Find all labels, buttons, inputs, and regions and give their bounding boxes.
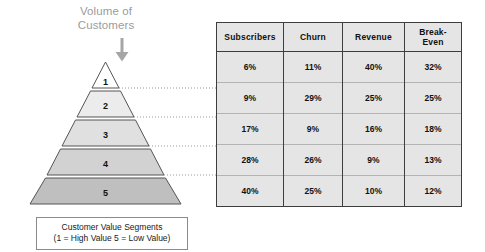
table-header-row: Subscribers Churn Revenue Break- Even [217, 23, 462, 52]
table-row: 9% 29% 25% 25% [217, 83, 462, 114]
pyramid-level-1[interactable]: 1 [92, 62, 119, 88]
pyramid-level-5[interactable]: 5 [30, 178, 181, 204]
cell-break-even: 12% [405, 176, 462, 207]
legend-caption-line-1: Customer Value Segments [39, 222, 185, 233]
column-header-break-even: Break- Even [405, 23, 462, 52]
cell-revenue: 25% [343, 83, 405, 114]
cell-break-even: 25% [405, 83, 462, 114]
cell-subscribers: 17% [217, 114, 284, 145]
column-header-churn: Churn [284, 23, 343, 52]
cell-break-even: 13% [405, 145, 462, 176]
cell-revenue: 16% [343, 114, 405, 145]
cell-revenue: 40% [343, 52, 405, 83]
cell-churn: 25% [284, 176, 343, 207]
cell-revenue: 9% [343, 145, 405, 176]
cell-revenue: 10% [343, 176, 405, 207]
cell-churn: 9% [284, 114, 343, 145]
table-row: 17% 9% 16% 18% [217, 114, 462, 145]
cell-subscribers: 40% [217, 176, 284, 207]
pyramid-level-1-label: 1 [103, 77, 108, 87]
column-header-revenue: Revenue [343, 23, 405, 52]
volume-of-customers-label: Volume of Customers [0, 4, 212, 32]
cell-break-even: 32% [405, 52, 462, 83]
cell-subscribers: 9% [217, 83, 284, 114]
pyramid-level-4-label: 4 [103, 159, 108, 169]
cell-churn: 26% [284, 145, 343, 176]
table-row: 28% 26% 9% 13% [217, 145, 462, 176]
segment-metrics-table: Subscribers Churn Revenue Break- Even 6%… [216, 22, 462, 207]
table-row: 40% 25% 10% 12% [217, 176, 462, 207]
customer-value-pyramid: 1 2 3 4 5 [0, 58, 212, 208]
pyramid-level-4[interactable]: 4 [47, 149, 164, 175]
pyramid-level-3-label: 3 [103, 130, 108, 140]
pyramid-level-5-label: 5 [103, 188, 108, 198]
cell-subscribers: 28% [217, 145, 284, 176]
table-row: 6% 11% 40% 32% [217, 52, 462, 83]
pyramid-panel: Volume of Customers 1 2 3 4 [0, 0, 212, 252]
pyramid-level-3[interactable]: 3 [62, 120, 149, 146]
legend-caption-line-2: (1 = High Value 5 = Low Value) [39, 233, 185, 244]
pyramid-level-2[interactable]: 2 [77, 91, 134, 117]
cell-churn: 29% [284, 83, 343, 114]
legend-caption-box: Customer Value Segments (1 = High Value … [36, 217, 188, 250]
cell-subscribers: 6% [217, 52, 284, 83]
column-header-subscribers: Subscribers [217, 23, 284, 52]
cell-churn: 11% [284, 52, 343, 83]
pyramid-level-2-label: 2 [103, 101, 108, 111]
cell-break-even: 18% [405, 114, 462, 145]
